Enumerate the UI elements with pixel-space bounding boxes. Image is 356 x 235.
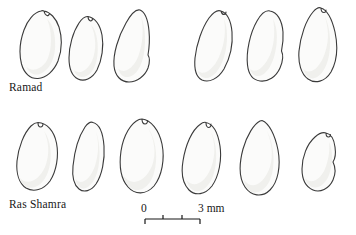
- seed-specimen-10: [180, 120, 224, 196]
- scale-min-label: 0: [141, 202, 147, 214]
- seed-specimen-11: [236, 118, 282, 198]
- seed-specimen-5: [244, 8, 286, 84]
- seed-outline-figure: Ramad R: [0, 0, 356, 235]
- scale-max-label: 3 mm: [198, 202, 225, 214]
- row-label-ras-shamra: Ras Shamra: [9, 198, 66, 210]
- seed-specimen-6: [296, 5, 340, 85]
- seed-specimen-4: [192, 8, 236, 84]
- seed-specimen-9: [116, 116, 166, 196]
- seed-specimen-8: [70, 120, 108, 194]
- row-label-ramad: Ramad: [9, 81, 43, 93]
- seed-specimen-7: [14, 120, 60, 194]
- seed-specimen-2: [66, 14, 106, 82]
- seed-specimen-12: [298, 130, 340, 194]
- seed-specimen-1: [17, 8, 65, 82]
- seed-specimen-3: [110, 7, 154, 85]
